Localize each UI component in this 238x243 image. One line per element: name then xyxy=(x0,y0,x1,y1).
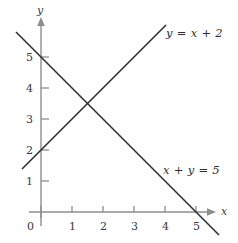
y-axis-arrowhead xyxy=(37,17,45,26)
x-tick-label-4: 4 xyxy=(162,221,169,232)
x-tick-label-3: 3 xyxy=(131,221,138,232)
x-axis-label: x xyxy=(221,206,227,217)
x-tick-label-1: 1 xyxy=(69,221,76,232)
y-axis-ticks xyxy=(41,57,49,181)
y-tick-label-4: 4 xyxy=(26,83,33,94)
y-tick-label-3: 3 xyxy=(26,114,33,125)
line-label-x-plus-y-equals-5: x + y = 5 xyxy=(163,165,220,177)
y-tick-label-5: 5 xyxy=(26,52,33,63)
x-tick-label-0: 0 xyxy=(27,221,34,232)
line-x-plus-y-sum-five xyxy=(16,32,219,235)
x-tick-label-5: 5 xyxy=(193,221,200,232)
line-y-equals-x-plus-2 xyxy=(22,25,166,169)
graph-figure: 5 4 3 2 1 0 1 2 3 4 5 y x y = x + 2 x + … xyxy=(0,0,238,243)
x-axis-arrowhead xyxy=(207,208,216,216)
y-tick-label-2: 2 xyxy=(26,145,33,156)
x-tick-label-2: 2 xyxy=(100,221,107,232)
y-axis-label: y xyxy=(37,5,43,16)
line-label-y-equals-x-plus-2: y = x + 2 xyxy=(166,28,223,40)
y-tick-label-1: 1 xyxy=(26,176,33,187)
